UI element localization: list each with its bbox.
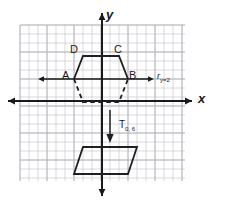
vertex-label-c: C: [114, 44, 122, 55]
vertex-label-b: B: [129, 70, 136, 81]
reflection-operator-label: ry=2: [157, 72, 170, 83]
x-axis-label: x: [198, 92, 205, 105]
y-axis: [99, 13, 106, 196]
x-axis: [8, 98, 192, 105]
diagram-canvas: A B C D x y ry=2 T0, 6: [0, 0, 227, 203]
geometry-figure: [0, 0, 227, 203]
y-axis-label: y: [106, 8, 113, 21]
translation-operator-label: T0, 6: [119, 120, 135, 132]
vertex-label-a: A: [62, 70, 69, 81]
reflection-subscript: y=2: [160, 77, 170, 83]
vertex-label-d: D: [70, 44, 78, 55]
reflection-line: [38, 76, 154, 81]
translation-subscript: 0, 6: [125, 126, 135, 132]
